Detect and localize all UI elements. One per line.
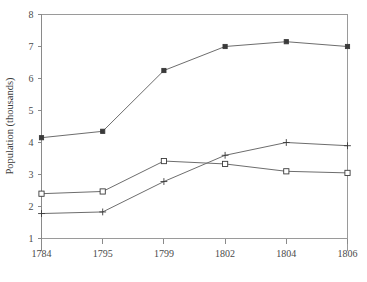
series-series-1 — [39, 40, 349, 140]
series-layer — [38, 40, 351, 217]
data-point-square — [100, 189, 105, 194]
x-tick-label: 1804 — [276, 248, 296, 259]
x-tick-label: 1799 — [154, 248, 174, 259]
series-line — [42, 143, 348, 214]
data-point-dot — [345, 44, 349, 48]
data-point-square — [223, 161, 228, 166]
data-point-dot — [284, 40, 288, 44]
data-point-square — [284, 169, 289, 174]
data-point-square — [39, 191, 44, 196]
y-tick-label: 8 — [29, 9, 34, 20]
y-tick-label: 2 — [29, 201, 34, 212]
x-tick-label: 1802 — [215, 248, 235, 259]
chart-container: 12345678 178417951799180218041806 Popula… — [0, 0, 367, 282]
series-line — [42, 42, 348, 138]
data-point-dot — [39, 136, 43, 140]
series-series-2 — [39, 158, 350, 196]
y-tick-label: 6 — [29, 73, 34, 84]
y-tick-label: 3 — [29, 169, 34, 180]
data-point-square — [161, 158, 166, 163]
x-axis-ticks — [42, 239, 348, 244]
x-tick-label: 1795 — [93, 248, 113, 259]
x-axis-tick-labels: 178417951799180218041806 — [32, 248, 358, 259]
data-point-dot — [162, 68, 166, 72]
data-point-dot — [101, 129, 105, 133]
y-tick-label: 7 — [29, 41, 34, 52]
data-point-square — [345, 170, 350, 175]
y-tick-label: 4 — [29, 137, 34, 148]
data-point-dot — [223, 44, 227, 48]
x-tick-label: 1806 — [338, 248, 358, 259]
y-axis-title-text: Population (thousands) — [4, 77, 16, 175]
y-axis-tick-labels: 12345678 — [29, 9, 34, 244]
series-line — [42, 161, 348, 194]
series-series-3 — [38, 139, 351, 217]
y-axis-ticks — [38, 15, 42, 239]
y-tick-label: 1 — [29, 233, 34, 244]
y-tick-label: 5 — [29, 105, 34, 116]
x-tick-label: 1784 — [32, 248, 52, 259]
population-line-chart: 12345678 178417951799180218041806 Popula… — [0, 0, 367, 282]
y-axis-title: Population (thousands) — [4, 77, 16, 175]
